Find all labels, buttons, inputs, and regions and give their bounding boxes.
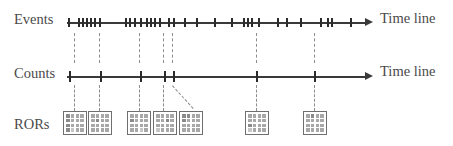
timeline-tick [231, 18, 233, 27]
ror-grid-cell [258, 128, 261, 131]
ror-grid-cell [156, 128, 159, 131]
ror-grid-cell [135, 128, 138, 131]
timeline-tick [159, 18, 161, 27]
connector-dashed-line [163, 33, 164, 63]
ror-grid-cell [182, 119, 185, 122]
ror-grid-cell [161, 114, 164, 117]
connector-dashed-line [74, 85, 75, 111]
ror-grid-cell [258, 119, 261, 122]
ror-grid-cell [66, 114, 69, 117]
timeline-tick [258, 18, 260, 27]
timeline-axis-label-events: Time line [380, 11, 435, 26]
timeline-tick [68, 18, 70, 27]
ror-grid [128, 112, 150, 134]
timeline-tick [173, 18, 175, 27]
timeline-tick [86, 18, 88, 27]
ror-grid-cell [96, 119, 99, 122]
timeline-tick [69, 71, 71, 81]
timeline-tick [125, 18, 127, 27]
ror-grid-cell [144, 114, 147, 117]
ror-grid-cell [196, 124, 199, 127]
ror-grid-cell [262, 124, 265, 127]
row-label-events: Events [14, 12, 53, 27]
timeline-tick [154, 18, 156, 27]
ror-grid-cell [144, 119, 147, 122]
ror-grid-cell [187, 119, 190, 122]
timeline-tick [184, 18, 186, 27]
ror-grid-cell [192, 124, 195, 127]
ror-grid-cell [66, 119, 69, 122]
connector-dashed-line [314, 85, 315, 111]
timeline-tick [168, 18, 170, 27]
timeline-tick [320, 18, 322, 27]
ror-grid-cell [105, 114, 108, 117]
ror-grid-cell [187, 128, 190, 131]
ror-grid [246, 112, 268, 134]
ror-grid-cell [258, 114, 261, 117]
ror-grid-cell [316, 114, 319, 117]
ror-grid [89, 112, 111, 134]
timeline-tick [196, 18, 198, 27]
ror-grid-cell [166, 114, 169, 117]
ror-grid-cell [140, 128, 143, 131]
timeline-tick [146, 18, 148, 27]
timeline-tick [247, 18, 249, 27]
timeline-tick [350, 18, 352, 27]
ror-grid-cell [144, 128, 147, 131]
ror-grid-cell [187, 124, 190, 127]
timeline-tick [90, 18, 92, 27]
ror-grid-cell [71, 128, 74, 131]
ror-grid-cell [320, 119, 323, 122]
ror-grid-cell [161, 124, 164, 127]
ror-grid-cell [248, 124, 251, 127]
ror-grid-cell [258, 124, 261, 127]
ror-grid-cell [96, 114, 99, 117]
connector-dashed-line [314, 33, 315, 63]
connector-dashed-line [99, 85, 100, 111]
timeline-tick [256, 71, 258, 81]
ror-grid-cell [161, 119, 164, 122]
timeline-tick [100, 71, 102, 81]
ror-grid-cell [140, 119, 143, 122]
ror-grid-cell [262, 128, 265, 131]
ror-grid-cell [192, 119, 195, 122]
ror-grid-cell [192, 128, 195, 131]
ror-grid-cell [135, 124, 138, 127]
ror-grid-cell [316, 128, 319, 131]
ror-grid-cell [253, 128, 256, 131]
ror-grid [304, 112, 326, 134]
ror-grid-cell [306, 119, 309, 122]
timeline-tick [243, 18, 245, 27]
connector-dashed-line [99, 33, 100, 63]
ror-grid-cell [91, 128, 94, 131]
timeline-tick [94, 18, 96, 27]
ror-grid [180, 112, 202, 134]
ror-grid-cell [311, 128, 314, 131]
ror-grid-cell [80, 114, 83, 117]
ror-grid-cell [71, 124, 74, 127]
ror-grid-cell [196, 128, 199, 131]
ror-grid-cell [196, 119, 199, 122]
axis-arrowhead-icon [365, 18, 373, 26]
ror-grid-cell [316, 124, 319, 127]
connector-dashed-line [172, 33, 173, 63]
ror-grid-cell [156, 114, 159, 117]
ror-grid-cell [248, 119, 251, 122]
ror-grid-cell [166, 128, 169, 131]
timeline-tick [82, 18, 84, 27]
ror-grid-cell [76, 119, 79, 122]
ror-grid-cell [182, 114, 185, 117]
ror-grid-cell [320, 128, 323, 131]
timeline-tick [286, 18, 288, 27]
ror-grid-cell [192, 114, 195, 117]
ror-grid-cell [161, 128, 164, 131]
timeline-tick [327, 18, 329, 27]
ror-grid-cell [105, 128, 108, 131]
row-label-counts: Counts [14, 66, 55, 81]
ror-grid-cell [311, 124, 314, 127]
connector-dashed-line [256, 33, 257, 63]
ror-grid-cell [170, 128, 173, 131]
ror-grid-cell [105, 124, 108, 127]
ror-grid-cell [91, 114, 94, 117]
connector-dashed-line [256, 85, 257, 111]
